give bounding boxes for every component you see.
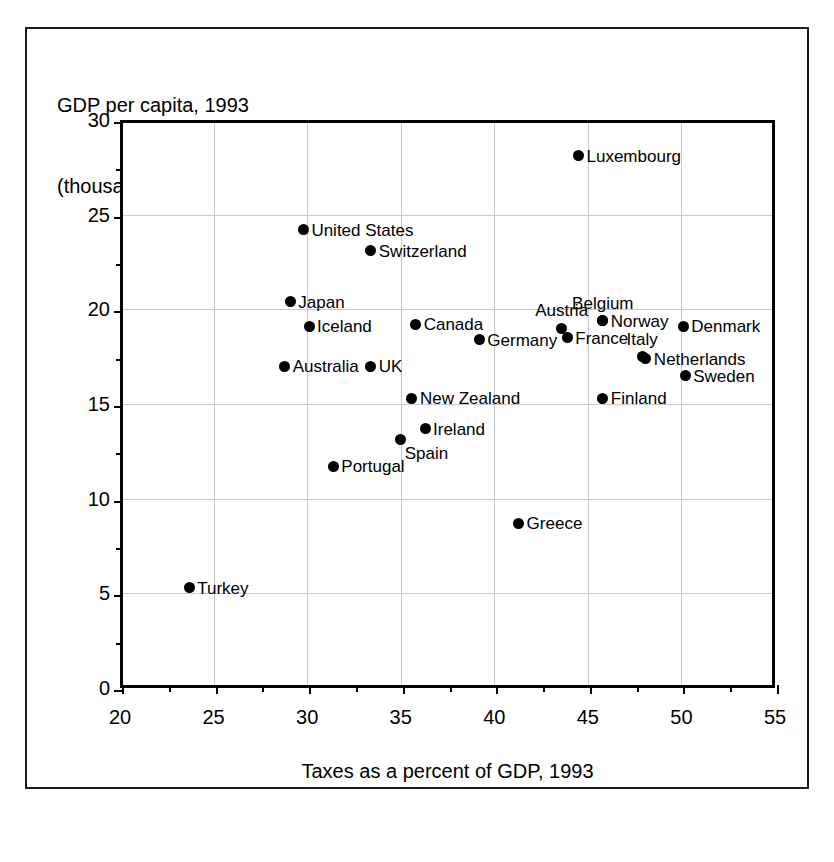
x-axis-tick-label: 45 [577,706,599,729]
data-point [285,296,296,307]
data-point [328,461,339,472]
data-point [365,245,376,256]
data-point-label: Greece [527,515,583,532]
data-point-label: Finland [611,390,667,407]
y-axis-tick-label: 0 [99,677,110,700]
x-axis-tick-label: 40 [483,706,505,729]
data-point-label: New Zealand [420,390,520,407]
x-axis-tick-labels: 2025303540455055 [120,706,775,736]
data-point-label: Denmark [691,318,760,335]
data-point [406,393,417,404]
data-point [562,332,573,343]
plot-area: LuxembourgUnited StatesSwitzerlandJapanI… [120,120,775,688]
data-point-label: Italy [627,331,658,348]
data-point-label: Luxembourg [587,147,682,164]
data-point [279,361,290,372]
data-point-label: Spain [405,445,448,462]
gridline-horizontal [120,215,775,216]
gridline-horizontal [120,499,775,500]
data-point [304,321,315,332]
y-axis-tick-label: 5 [99,582,110,605]
data-point [573,150,584,161]
chart-page: GDP per capita, 1993 (thousands of U.S. … [0,0,834,862]
data-point [474,334,485,345]
data-point [513,518,524,529]
data-point-label: Japan [298,293,344,310]
data-point-label: United States [311,221,413,238]
y-axis-tick-label: 10 [88,487,110,510]
y-axis-tick-label: 25 [88,203,110,226]
data-point-label: Germany [487,331,557,348]
data-point [678,321,689,332]
data-point-label: Canada [424,316,484,333]
gridline-horizontal [120,309,775,310]
x-axis-tick-label: 50 [670,706,692,729]
x-axis-tick-label: 35 [390,706,412,729]
data-point [420,423,431,434]
data-point [640,353,651,364]
data-point-label: Netherlands [654,350,746,367]
x-axis-tick-label: 30 [296,706,318,729]
data-point-label: Switzerland [379,242,467,259]
y-axis-tick-label: 15 [88,393,110,416]
data-point-label: Australia [293,358,359,375]
y-axis-tick-labels: 051015202530 [55,120,110,688]
data-point-label: France [575,329,628,346]
x-axis-tick-label: 20 [109,706,131,729]
data-point [365,361,376,372]
x-axis-tick-label: 25 [202,706,224,729]
data-point [680,370,691,381]
data-point-label: Portugal [341,458,404,475]
data-point [184,582,195,593]
data-point-label: Sweden [693,367,754,384]
data-point [597,315,608,326]
data-point-label: Austria [535,302,588,319]
x-axis-tick-label: 55 [764,706,786,729]
y-axis-tick-label: 20 [88,298,110,321]
data-point-label: Iceland [317,318,372,335]
data-point [410,319,421,330]
data-point-label: Ireland [433,420,485,437]
x-axis-title: Taxes as a percent of GDP, 1993 [120,760,775,783]
data-point-label: Norway [611,312,669,329]
data-point [597,393,608,404]
data-point-label: Turkey [197,579,248,596]
data-point-label: UK [379,358,403,375]
y-axis-tick-label: 30 [88,109,110,132]
